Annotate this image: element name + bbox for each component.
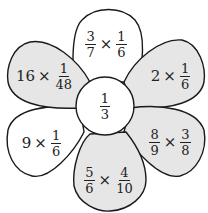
petal-label-lower-right: 89 × 38 [140, 124, 200, 160]
flower-diagram: 13 37 × 16 2 × 16 89 × 38 56 × 410 9 × 1… [0, 0, 208, 213]
petal-label-upper-right: 2 × 16 [142, 58, 200, 94]
petal-label-upper-left: 16 × 148 [12, 58, 78, 94]
petal-label-lower-left: 9 × 16 [14, 125, 70, 161]
petal-label-bottom: 56 × 410 [78, 162, 140, 198]
petal-label-top: 37 × 16 [76, 26, 136, 62]
center-label: 13 [85, 86, 125, 126]
